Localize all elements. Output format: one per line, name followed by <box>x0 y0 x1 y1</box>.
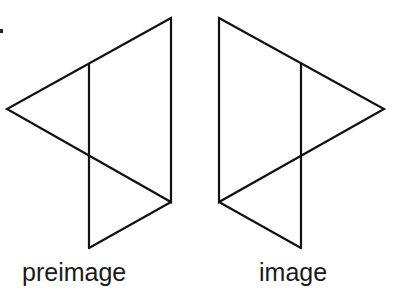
preimage-label: preimage <box>22 260 126 285</box>
image-lower-edge <box>219 202 301 248</box>
image-label: image <box>259 260 327 285</box>
preimage-lower-edge <box>89 202 171 248</box>
diagram-svg <box>0 0 398 292</box>
preimage-figure <box>7 18 171 248</box>
reflection-diagram: preimage image <box>0 0 398 292</box>
corner-mark <box>0 29 3 33</box>
image-figure <box>219 18 384 248</box>
